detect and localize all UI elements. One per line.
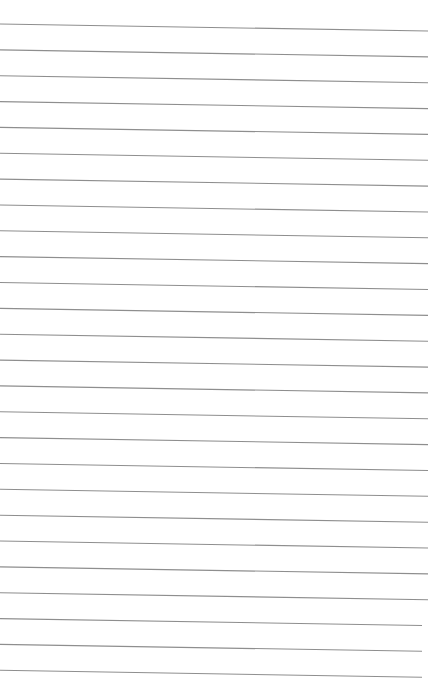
- ruled-line: [0, 489, 428, 496]
- ruled-line: [0, 153, 428, 160]
- ruled-line: [0, 127, 428, 134]
- ruled-line: [0, 179, 428, 186]
- ruled-line: [0, 515, 428, 522]
- ruled-line: [0, 257, 428, 264]
- ruled-line: [0, 644, 422, 651]
- ruled-line: [0, 308, 428, 315]
- ruled-line: [0, 438, 428, 445]
- ruled-line: [0, 670, 422, 677]
- ruled-line: [0, 464, 428, 471]
- ruled-line: [0, 283, 428, 290]
- ruled-line: [0, 334, 428, 341]
- ruled-line: [0, 24, 428, 31]
- ruled-line: [0, 50, 428, 57]
- ruled-line: [0, 231, 428, 238]
- ruled-line: [0, 412, 428, 419]
- ruled-line: [0, 619, 422, 626]
- lined-paper-page: [0, 0, 428, 692]
- ruled-line: [0, 593, 428, 600]
- ruled-line: [0, 541, 428, 548]
- ruled-line: [0, 205, 428, 212]
- ruled-line: [0, 386, 428, 393]
- ruled-line: [0, 567, 428, 574]
- ruled-lines: [0, 0, 428, 692]
- ruled-line: [0, 76, 428, 83]
- ruled-line: [0, 102, 428, 109]
- ruled-line: [0, 360, 428, 367]
